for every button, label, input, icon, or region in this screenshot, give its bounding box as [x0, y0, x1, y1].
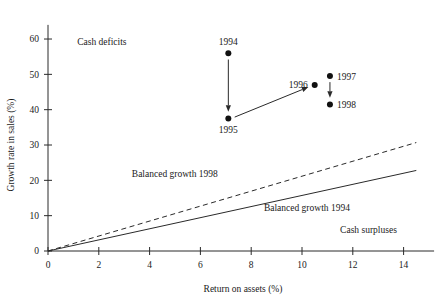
x-tick-label: 4 — [147, 260, 152, 270]
data-point-1997 — [327, 73, 333, 79]
cropped-header-text — [52, 0, 312, 5]
annotation-balanced-growth-1994: Balanced growth 1994 — [264, 203, 350, 213]
x-axis-title: Return on assets (%) — [204, 284, 283, 295]
point-label-1994: 1994 — [219, 37, 238, 47]
annotation-cash-deficits: Cash deficits — [77, 37, 127, 47]
trend-line-solid — [48, 170, 416, 251]
data-point-1994 — [225, 50, 231, 56]
scatter-chart: 02468101214 0102030405060 19941995199619… — [0, 0, 439, 298]
y-axis-ticks: 0102030405060 — [30, 34, 53, 256]
x-tick-label: 0 — [46, 260, 51, 270]
point-label-1996: 1996 — [289, 80, 308, 90]
axes-group — [48, 25, 434, 251]
point-label-1997: 1997 — [337, 72, 356, 82]
data-point-1998 — [327, 101, 333, 107]
data-points: 19941995199619971998 — [219, 37, 356, 134]
x-tick-label: 12 — [348, 260, 358, 270]
figure-container: 02468101214 0102030405060 19941995199619… — [0, 0, 439, 298]
y-tick-label: 30 — [30, 140, 40, 150]
x-tick-label: 8 — [249, 260, 254, 270]
y-tick-label: 20 — [30, 176, 40, 186]
y-tick-label: 0 — [34, 246, 39, 256]
x-tick-label: 10 — [297, 260, 307, 270]
x-tick-label: 6 — [198, 260, 203, 270]
y-tick-label: 50 — [30, 70, 40, 80]
x-tick-label: 14 — [399, 260, 409, 270]
arrow-head-1997-to-1998 — [327, 91, 332, 98]
y-tick-label: 60 — [30, 34, 40, 44]
arrow-head-1994-to-1995 — [226, 105, 231, 112]
transition-arrows — [226, 60, 333, 118]
data-point-1996 — [312, 82, 318, 88]
y-axis-title: Growth rate in sales (%) — [6, 99, 17, 192]
point-label-1998: 1998 — [337, 100, 356, 110]
point-label-1995: 1995 — [219, 125, 238, 135]
y-tick-label: 40 — [30, 105, 40, 115]
x-tick-label: 2 — [96, 260, 101, 270]
annotation-cash-surpluses: Cash surpluses — [340, 225, 397, 235]
region-annotations: Cash deficitsBalanced growth 1998Balance… — [77, 37, 397, 235]
y-tick-label: 10 — [30, 211, 40, 221]
data-point-1995 — [225, 116, 231, 122]
x-axis-ticks: 02468101214 — [46, 247, 409, 270]
annotation-balanced-growth-1998: Balanced growth 1998 — [132, 169, 218, 179]
arrow-shaft-1995-to-1996 — [235, 90, 303, 118]
